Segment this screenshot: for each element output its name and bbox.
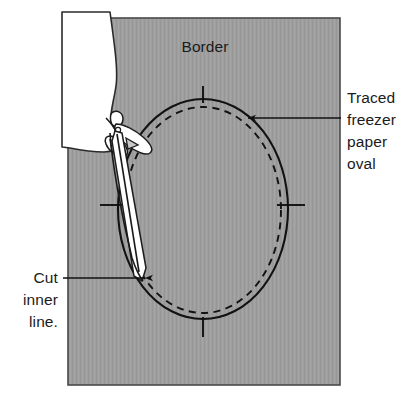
label-cut-line-3: line. [29,313,58,330]
label-traced-freezer-paper-oval: Traced freezer paper oval [347,89,396,172]
label-cut-inner-line: Cut inner line. [23,269,59,330]
label-traced-line-1: Traced [347,89,395,106]
label-cut-line-1: Cut [34,269,59,286]
oval-tracing-figure: Border Traced freezer paper oval Cut inn… [0,0,417,406]
label-border: Border [181,38,228,55]
label-traced-line-3: paper [347,133,387,150]
label-traced-line-2: freezer [347,111,396,128]
figure-canvas: Border Traced freezer paper oval Cut inn… [0,0,417,406]
label-cut-line-2: inner [23,291,58,308]
label-traced-line-4: oval [347,155,376,172]
